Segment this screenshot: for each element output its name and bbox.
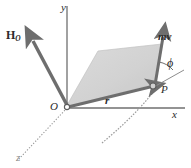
z-axis (18, 108, 67, 160)
label-angle-phi: ϕ (167, 57, 173, 69)
particle-marker-P (150, 83, 156, 89)
shaded-plane (66, 44, 162, 107)
label-momentum-mv: mv (158, 31, 171, 42)
label-HO-main: H (6, 28, 15, 42)
label-axis-x: x (172, 109, 177, 120)
label-point-P: P (161, 84, 168, 95)
label-position-vector-r: r (105, 95, 109, 106)
angular-momentum-figure: HO mv ϕ P r O x y z (0, 0, 191, 168)
angular-momentum-vector-HO (33, 41, 68, 107)
label-HO-subscript: O (15, 34, 20, 43)
label-angular-momentum-HO: HO (6, 29, 21, 42)
label-origin-O: O (50, 101, 58, 112)
label-axis-y: y (61, 2, 66, 13)
label-axis-z: z (16, 152, 20, 163)
origin-marker-O (64, 104, 69, 109)
